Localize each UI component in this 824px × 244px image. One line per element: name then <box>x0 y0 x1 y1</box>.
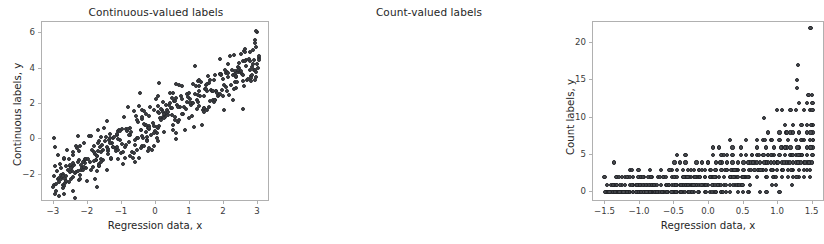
data-point <box>797 130 801 134</box>
data-point <box>805 101 809 105</box>
panel-continuous-valued-labels: Continuous-valued labels Continuous labe… <box>0 0 280 244</box>
data-point <box>713 183 717 187</box>
data-point <box>137 156 141 160</box>
data-point <box>681 168 685 172</box>
data-point <box>799 138 803 142</box>
data-point <box>208 99 212 103</box>
x-tick-label: 1.5 <box>805 206 819 216</box>
data-point <box>138 91 142 95</box>
data-point <box>124 143 128 147</box>
data-point <box>64 174 68 178</box>
data-point <box>180 84 184 88</box>
data-point <box>667 183 671 187</box>
data-point <box>59 166 63 170</box>
data-point <box>799 123 803 127</box>
data-point <box>795 78 799 82</box>
data-point <box>228 54 232 58</box>
data-point <box>691 183 695 187</box>
data-point <box>67 157 71 161</box>
data-point <box>675 168 679 172</box>
data-point <box>71 150 75 154</box>
data-point <box>785 130 789 134</box>
data-point <box>775 168 779 172</box>
data-point <box>755 145 759 149</box>
data-point <box>731 183 735 187</box>
data-point <box>730 153 734 157</box>
data-point <box>761 153 765 157</box>
data-point <box>116 157 120 161</box>
data-point <box>808 175 812 179</box>
data-point <box>770 168 774 172</box>
data-point <box>810 108 814 112</box>
data-point <box>790 183 794 187</box>
data-point <box>243 59 247 63</box>
data-point-outlier <box>62 192 66 196</box>
data-point <box>229 83 233 87</box>
data-point <box>254 45 258 49</box>
data-point <box>809 123 813 127</box>
data-point <box>805 168 809 172</box>
data-point <box>741 160 745 164</box>
data-point <box>749 168 753 172</box>
data-point <box>97 164 101 168</box>
data-point <box>800 153 804 157</box>
data-point <box>156 94 160 98</box>
data-point <box>176 105 180 109</box>
y-tick-mark <box>38 32 41 33</box>
plot-area-right <box>592 21 824 201</box>
data-point <box>62 156 66 160</box>
x-axis-label-left: Regression data, x <box>108 220 202 231</box>
data-point <box>137 104 141 108</box>
data-point <box>68 170 72 174</box>
data-point <box>212 78 216 82</box>
data-point <box>218 57 222 61</box>
data-point <box>623 183 627 187</box>
data-point <box>808 26 812 30</box>
data-point <box>791 130 795 134</box>
data-point <box>168 101 172 105</box>
data-point <box>679 183 683 187</box>
data-point <box>776 160 780 164</box>
data-point <box>82 165 86 169</box>
data-point <box>709 168 713 172</box>
data-point <box>257 54 261 58</box>
y-tick-label: 10 <box>558 112 586 122</box>
data-point <box>192 125 196 129</box>
data-point <box>93 177 97 181</box>
data-point <box>810 101 814 105</box>
x-tick-mark <box>121 201 122 204</box>
data-point <box>188 101 192 105</box>
data-point <box>718 160 722 164</box>
data-point <box>744 138 748 142</box>
data-point <box>748 183 752 187</box>
data-point <box>758 168 762 172</box>
data-point <box>732 168 736 172</box>
data-point <box>241 79 245 83</box>
data-point <box>236 68 240 72</box>
data-point <box>794 138 798 142</box>
y-tick-label: 0 <box>7 133 35 143</box>
data-point <box>714 190 718 194</box>
data-point <box>162 130 166 134</box>
y-tick-label: −2 <box>7 169 35 179</box>
x-tick-label: 1 <box>186 206 191 216</box>
y-tick-mark <box>589 79 592 80</box>
data-point <box>123 156 127 160</box>
data-point <box>717 145 721 149</box>
data-point <box>157 81 161 85</box>
data-point <box>728 190 732 194</box>
y-tick-mark <box>38 103 41 104</box>
data-point <box>635 183 639 187</box>
data-point <box>786 175 790 179</box>
y-tick-mark <box>38 68 41 69</box>
data-point <box>683 153 687 157</box>
y-tick-mark <box>38 138 41 139</box>
data-point <box>135 118 139 122</box>
data-point <box>764 145 768 149</box>
x-axis-label-right: Regression data, x <box>661 220 755 231</box>
data-point <box>783 153 787 157</box>
data-point <box>213 98 217 102</box>
data-point <box>698 175 702 179</box>
data-point <box>757 153 761 157</box>
